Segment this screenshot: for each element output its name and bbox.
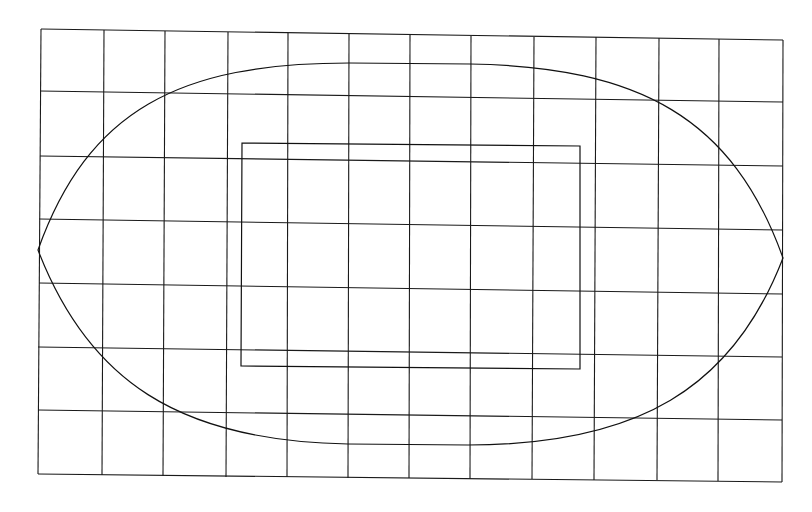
vertical-grid-line xyxy=(409,35,410,478)
vertical-grid-line xyxy=(102,30,104,475)
vertical-grid-line xyxy=(163,31,165,476)
vertical-grid-line xyxy=(470,36,471,479)
vertical-grid-line xyxy=(657,38,659,480)
vertical-grid-line xyxy=(594,37,596,480)
horizontal-grid-line xyxy=(38,347,782,357)
horizontal-grid-line xyxy=(39,283,783,294)
grid-lines xyxy=(38,29,783,482)
horizontal-grid-line xyxy=(38,410,782,420)
horizontal-grid-line xyxy=(39,219,783,230)
lens-outline xyxy=(38,63,783,445)
horizontal-grid-line xyxy=(41,29,783,40)
horizontal-grid-line xyxy=(38,474,782,482)
inner-rectangle xyxy=(241,143,580,369)
vertical-grid-line xyxy=(718,39,719,481)
vertical-grid-line xyxy=(348,34,349,478)
vertical-grid-line xyxy=(532,37,534,479)
grid-diagram xyxy=(0,0,812,512)
horizontal-grid-line xyxy=(40,91,783,102)
horizontal-grid-line xyxy=(40,156,783,166)
vertical-grid-line xyxy=(287,33,288,477)
vertical-grid-line xyxy=(226,32,228,477)
